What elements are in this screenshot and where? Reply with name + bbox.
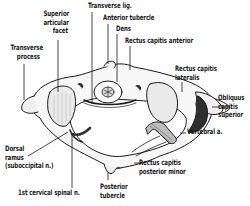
label-line: process bbox=[10, 53, 40, 62]
label-superior-articular-facet: Superior articular facet bbox=[43, 10, 68, 36]
label-posterior-tubercle: Posterior tubercle bbox=[100, 183, 128, 200]
label-line: Dens bbox=[116, 25, 131, 34]
label-rectus-capitis-anterior: Rectus capitis anterior bbox=[125, 37, 193, 46]
label-rectus-capitis-posterior-minor: Rectus capitis posterior minor bbox=[139, 159, 186, 176]
label-dens: Dens bbox=[116, 25, 131, 34]
label-line: tubercle bbox=[100, 192, 128, 201]
label-vertebral-a: Vertebral a. bbox=[187, 128, 222, 137]
label-dorsal-ramus: Dorsal ramus (suboccipital n.) bbox=[5, 145, 53, 171]
label-line: facet bbox=[43, 27, 68, 36]
label-line: lateralis bbox=[175, 74, 217, 83]
label-transverse-process: Transverse process bbox=[10, 44, 40, 61]
label-line: (suboccipital n.) bbox=[5, 162, 53, 171]
label-first-cervical-spinal-n: 1st cervical spinal n. bbox=[18, 189, 80, 198]
label-line: Anterior tubercle bbox=[103, 14, 154, 23]
label-line: Transverse lig. bbox=[88, 2, 132, 11]
label-rectus-capitis-lateralis: Rectus capitis lateralis bbox=[175, 65, 217, 82]
label-obliquus-capitis-superior: Obliquus capitis superior bbox=[218, 94, 245, 120]
label-transverse-lig: Transverse lig. bbox=[88, 2, 132, 11]
label-line: Rectus capitis anterior bbox=[125, 37, 193, 46]
label-line: Vertebral a. bbox=[187, 128, 222, 137]
label-anterior-tubercle: Anterior tubercle bbox=[103, 14, 154, 23]
label-line: 1st cervical spinal n. bbox=[18, 189, 80, 198]
label-line: posterior minor bbox=[139, 168, 186, 177]
label-line: superior bbox=[218, 111, 245, 120]
atlas-diagram: Superior articular facet Transverse lig.… bbox=[0, 0, 250, 206]
